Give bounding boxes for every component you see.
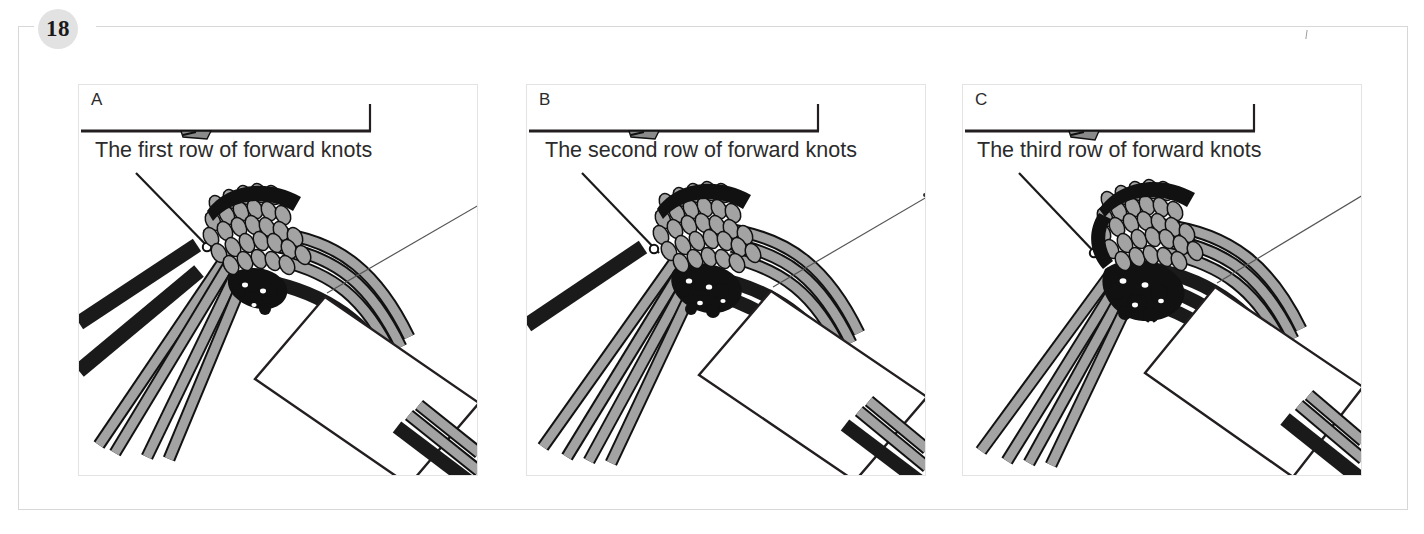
chapter-number-label: 18 [46,16,70,42]
panel-b-letter: B [539,91,551,108]
panel-b-caption: The second row of forward knots [545,139,925,163]
card-overlay-b [699,291,926,476]
chapter-number-badge: 18 [38,9,78,49]
figure-panel-c: C The third row of forward knots [962,84,1362,476]
figure-page: 18 [0,0,1424,534]
panel-c-letter: C [975,91,988,108]
panel-a-letter: A [91,91,103,108]
figure-panel-a: A The first row of forward knots [78,84,478,476]
panel-a-caption: The first row of forward knots [95,139,477,163]
panel-c-caption: The third row of forward knots [977,139,1361,163]
figure-panel-b: B The second row of forward knots [526,84,926,476]
